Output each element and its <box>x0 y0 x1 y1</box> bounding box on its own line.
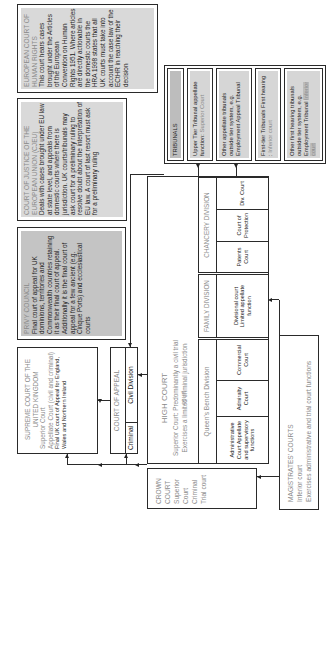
chancery-patents-court: Patents Court <box>216 241 269 273</box>
family-division-box: FAMILY DIVISION Divisional court Limited… <box>198 274 269 338</box>
chancery-title: CHANCERY DIVISION <box>203 178 211 272</box>
qbd-admiralty-court: Admiralty Court <box>216 380 269 417</box>
tribunal-upper-text: Upper Tier Tribunal appellate function: … <box>192 73 206 156</box>
connector-tribunals-drop <box>130 174 164 175</box>
connector-tribunals-to-appeal <box>130 174 131 347</box>
cjeu-title-2: EUROPEAN UNION (CJEU) <box>31 102 39 215</box>
tribunal-upper-tier: Upper Tier Tribunal appellate function: … <box>187 68 213 161</box>
arrow-appeal-to-supreme <box>98 399 102 403</box>
family-title: FAMILY DIVISION <box>203 275 211 337</box>
high-court-title: HIGH COURT <box>160 338 170 458</box>
tribunal-other-first: Other first hearing tribunals outside ti… <box>284 68 323 161</box>
family-divisional-court: Divisional court Limited appellate funct… <box>216 274 269 338</box>
crown-court-box: CROWN COURT Superior Court Criminal Tria… <box>147 468 257 509</box>
crown-text: CROWN COURT Superior Court Criminal Tria… <box>154 469 208 504</box>
supreme-court-box: SUPREME COURT OF THE UNITED KINGDOM Supe… <box>17 347 98 454</box>
qbd-box: Queen's Bench Division Administrative Co… <box>198 339 269 464</box>
crown-line-6: Trial court <box>199 469 208 504</box>
privy-council-box: PRIVY COUNCIL Final court of appeal for … <box>17 227 126 340</box>
chancery-div-court: Div. Court <box>216 177 269 210</box>
privy-title: PRIVY COUNCIL <box>23 231 31 334</box>
appeal-criminal: Criminal <box>127 423 135 453</box>
qbd-admin-court: Administrative Court Appellate and super… <box>216 416 269 464</box>
high-court-line-2: Exercises a limited criminal jurisdictio… <box>181 338 189 458</box>
appeal-civil: Civil Division <box>127 348 135 422</box>
privy-body: Final court of appeal for UK dominions, … <box>31 231 92 334</box>
echr-title-2: HUMAN RIGHTS <box>31 8 39 87</box>
connector-tribunal-appellate <box>236 164 237 176</box>
echr-box: EUROPEAN COURT OF HUMAN RIGHTS This cour… <box>17 4 158 93</box>
magistrates-title: MAGISTRATES' COURTS <box>286 337 295 502</box>
crown-line-1: CROWN <box>154 469 163 504</box>
echr-title-1: EUROPEAN COURT OF <box>23 8 31 87</box>
tribunal-first-tier-text: First-tier Tribunals First hearing : Inf… <box>260 73 274 156</box>
supreme-text: SUPREME COURT OF THE UNITED KINGDOM Supe… <box>24 350 68 449</box>
cjeu-box: COURT OF JUSTICE OF THE EUROPEAN UNION (… <box>17 98 127 221</box>
arrow-trunk-1 <box>98 463 102 467</box>
supreme-line-2: Appellate Court (civil and criminal) <box>47 350 55 449</box>
qbd-commercial-court: Commercial Court <box>216 339 269 381</box>
court-of-appeal-box: COURT OF APPEAL Criminal Civil Division <box>110 347 138 454</box>
qbd-title: Queen's Bench Division <box>203 340 211 463</box>
privy-text: PRIVY COUNCIL Final court of appeal for … <box>23 231 91 334</box>
magistrates-text: MAGISTRATES' COURTS Inferior court Exerc… <box>286 337 313 502</box>
crown-line-5: Criminal <box>190 469 199 504</box>
magistrates-line-2: Exercises administrative and trial court… <box>304 337 313 502</box>
tribunal-other-first-text: Other first hearing tribunals outside ti… <box>289 73 317 156</box>
tribunals-title: TRIBUNALS <box>172 73 179 156</box>
appeal-title: COURT OF APPEAL <box>113 348 121 453</box>
tribunal-other-appellate-text: Other appellate tribunals outside tier s… <box>221 73 242 156</box>
supreme-title-2: UNITED KINGDOM <box>32 350 40 449</box>
tribunals-box: TRIBUNALS Upper Tier Tribunal appellate … <box>164 65 326 164</box>
echr-text: EUROPEAN COURT OF HUMAN RIGHTS This cour… <box>23 8 129 87</box>
tribunal-first-tier-status: Inferior court <box>267 120 273 153</box>
supreme-title-1: SUPREME COURT OF THE <box>24 350 32 449</box>
tribunal-upper-status: Superior Court <box>199 95 205 133</box>
magistrates-line-1: Inferior court <box>295 337 304 502</box>
chancery-court-of-protection: Court of Protection <box>216 209 269 242</box>
arrow-magistrates-to-family <box>268 298 272 302</box>
chancery-division-box: CHANCERY DIVISION Patents Court Court of… <box>198 177 269 273</box>
echr-body: This court hears cases brought under the… <box>38 8 129 87</box>
tribunals-header: TRIBUNALS <box>167 68 184 161</box>
arrow-trunk-2 <box>135 463 139 467</box>
crown-line-4: Court <box>181 469 190 504</box>
arrow-to-appeal-civil <box>128 343 132 347</box>
cjeu-text: COURT OF JUSTICE OF THE EUROPEAN UNION (… <box>23 102 99 215</box>
connector-tribunal-upper <box>198 164 199 176</box>
arrow-magistrates-to-crown <box>257 475 261 479</box>
connector-magistrates-to-family-h <box>279 300 280 335</box>
arrow-high-to-appeal <box>138 373 142 377</box>
cjeu-body: Deals with cases brought under EU law at… <box>38 102 99 215</box>
crown-line-3: Superior <box>172 469 181 504</box>
supreme-line-3: Final UK court of Appeal for England, Wa… <box>54 350 68 449</box>
connector-magistrates-to-family <box>271 299 279 300</box>
high-court-box: HIGH COURT Superior Court: Predominantly… <box>147 176 269 464</box>
uk-court-structure-diagram: EUROPEAN COURT OF HUMAN RIGHTS This cour… <box>0 0 333 645</box>
arrow-to-supreme <box>65 454 69 458</box>
crown-line-2: COURT <box>163 469 172 504</box>
arrow-to-appeal-criminal <box>124 454 128 458</box>
magistrates-court-box: MAGISTRATES' COURTS Inferior court Exerc… <box>279 335 319 510</box>
supreme-line-1: Superior Court <box>39 350 47 449</box>
tribunal-first-tier: First-tier Tribunals First hearing : Inf… <box>255 68 281 161</box>
appeal-divider <box>125 348 126 453</box>
tribunal-other-appellate: Other appellate tribunals outside tier s… <box>216 68 252 161</box>
cjeu-title-1: COURT OF JUSTICE OF THE <box>23 102 31 215</box>
